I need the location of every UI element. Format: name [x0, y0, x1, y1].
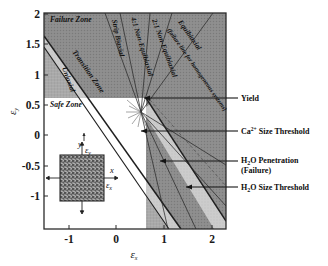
x-tick-neg-1: -1: [64, 233, 74, 245]
x-axis-title-subscript: x: [134, 255, 138, 261]
x-tick-0: 0: [113, 233, 119, 245]
y-tick-1-5: 1.5: [26, 38, 41, 50]
h2o-size-suffix: O Size Threshold: [250, 183, 309, 192]
y-axis-title-subscript: y: [13, 108, 19, 112]
x-tick-1: 1: [161, 233, 167, 245]
y-tick-neg-0-5: -0.5: [22, 160, 40, 172]
y-axis-ticks: 2 1.5 1 0.5 0 -0.5 -1: [22, 8, 40, 202]
annotation-label-yield: Yield: [241, 94, 259, 103]
annotation-label-ca-size-threshold: Ca2+ Size Threshold: [241, 126, 310, 136]
safe-zone-label: Safe Zone: [50, 100, 82, 109]
annotation-label-h2o-size-threshold: H2O Size Threshold: [241, 183, 310, 193]
figure-canvas: Failure Zone Safe Zone Transition Zone U…: [0, 0, 328, 266]
annotation-label-h2o-penetration-line2: (Failure): [241, 166, 271, 175]
threshold-annotation-callouts: Yield Ca2+ Size Threshold H2O Penetratio…: [226, 94, 310, 193]
ca-suffix: Size Threshold: [257, 127, 310, 136]
y-axis-title: εy: [6, 108, 19, 115]
annotation-leader-lines: [226, 98, 238, 187]
x-axis-title: εx: [130, 248, 137, 261]
x-axis-ticks: -1 0 1 2: [64, 233, 215, 245]
annotation-label-h2o-penetration: H2O Penetration: [241, 156, 299, 166]
forming-limit-diagram-figure: Failure Zone Safe Zone Transition Zone U…: [0, 0, 328, 266]
y-tick-0: 0: [34, 129, 40, 141]
x-tick-2: 2: [209, 233, 215, 245]
y-tick-0-5: 0.5: [26, 99, 41, 111]
ca-prefix: Ca: [241, 127, 251, 136]
failure-zone-label: Failure Zone: [50, 15, 92, 24]
inset-x-axis-label: x: [109, 165, 114, 175]
y-tick-1: 1: [34, 69, 40, 81]
y-tick-neg-1: -1: [30, 190, 40, 202]
inset-material-element: [60, 155, 104, 201]
svg-text:εy: εy: [6, 108, 19, 115]
y-tick-2: 2: [34, 8, 40, 20]
svg-text:εx: εx: [130, 248, 137, 261]
h2o-pen-suffix: O Penetration: [250, 156, 299, 165]
